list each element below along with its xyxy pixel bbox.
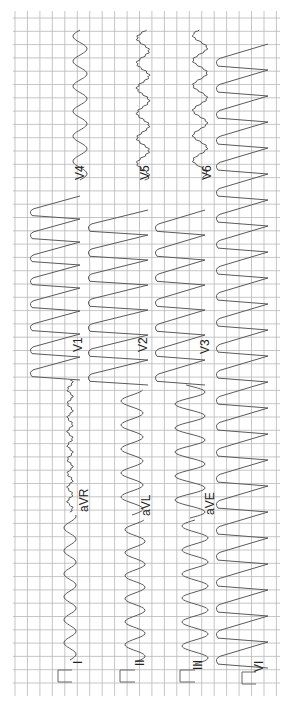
lead-label-aVL: aVL (140, 495, 152, 516)
lead-label-V3: V3 (199, 339, 211, 354)
lead-label-aVR: aVR (78, 489, 90, 512)
lead-label-V4: V4 (74, 165, 86, 180)
lead-label-III: III (192, 660, 204, 670)
lead-label-II: II (134, 659, 146, 666)
ecg-tracing (0, 0, 299, 705)
lead-label-V2: V2 (137, 337, 149, 352)
lead-label-I: I (72, 661, 84, 664)
lead-label-aVF: aVE (204, 492, 216, 515)
lead-label-V6: V6 (201, 165, 213, 180)
lead-label-V5: V5 (139, 165, 151, 180)
lead-label-VI: VI (253, 661, 265, 672)
lead-label-V1: V1 (72, 337, 84, 352)
